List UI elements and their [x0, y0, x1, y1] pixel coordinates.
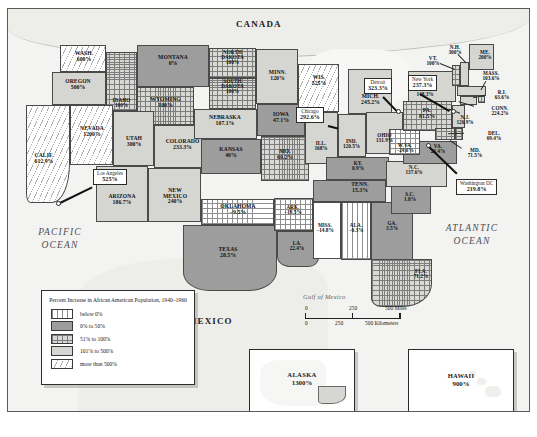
- inset-label-alaska: ALASKA 1300%: [250, 372, 354, 386]
- alaska-panhandle: [318, 386, 346, 404]
- state-oklahoma[interactable]: [201, 199, 274, 225]
- state-texas[interactable]: [183, 225, 277, 291]
- state-mississippi[interactable]: [313, 202, 341, 259]
- state-indiana[interactable]: [338, 114, 366, 157]
- state-north-dakota[interactable]: [209, 48, 256, 78]
- state-missouri[interactable]: [261, 136, 309, 181]
- inset-alaska[interactable]: ALASKA 1300%: [249, 349, 355, 412]
- city-value: 323.3%: [368, 85, 388, 91]
- state-washington[interactable]: [60, 45, 106, 72]
- legend-title: Percent Increase in African American Pop…: [49, 297, 187, 305]
- city-callout-washington-dc[interactable]: Washington DC 219.8%: [456, 179, 497, 195]
- city-callout-new-york[interactable]: New York 237.3%: [408, 75, 437, 91]
- state-minnesota[interactable]: [256, 49, 298, 104]
- legend-swatch-0-50: [51, 321, 73, 331]
- state-new-hampshire[interactable]: [460, 62, 469, 86]
- legend-label: below 0%: [80, 311, 103, 317]
- state-pennsylvania[interactable]: [403, 101, 452, 131]
- legend-swatch-over-500: [51, 359, 73, 369]
- state-west-virginia[interactable]: [389, 129, 420, 155]
- state-nebraska[interactable]: [194, 109, 257, 139]
- scale-tick: 0: [305, 320, 308, 326]
- legend-item-0-50: 0% to 50%: [51, 321, 194, 331]
- state-south-carolina[interactable]: [391, 184, 431, 214]
- scale-tick: 250: [349, 305, 357, 311]
- state-florida[interactable]: [371, 259, 432, 307]
- city-value: 292.6%: [300, 114, 320, 120]
- legend-item-below-0: below 0%: [51, 309, 194, 319]
- scale-rule: [305, 313, 401, 319]
- map-canvas: CANADA MEXICO PACIFICOCEAN ATLANTICOCEAN…: [8, 9, 529, 411]
- legend: Percent Increase in African American Pop…: [41, 290, 195, 385]
- legend-label: more than 500%: [80, 361, 117, 367]
- hawaii-island: [485, 386, 501, 397]
- legend-item-over-500: more than 500%: [51, 359, 194, 369]
- state-maine[interactable]: [469, 44, 494, 70]
- state-delaware[interactable]: [455, 128, 463, 140]
- scale-kilometers-ticks: 0 250 500 Kilometers: [305, 320, 423, 328]
- city-marker-washington-dc: [426, 143, 431, 148]
- scale-tick: 500 Kilometers: [365, 320, 398, 326]
- state-utah[interactable]: [113, 111, 154, 166]
- legend-swatch-51-100: [51, 334, 73, 344]
- inset-value: 1300%: [250, 379, 354, 386]
- city-marker-los-angeles: [56, 201, 61, 206]
- inset-hawaii[interactable]: HAWAII 900%: [408, 349, 514, 412]
- state-nevada[interactable]: [70, 105, 113, 165]
- scale-tick: 250: [335, 320, 343, 326]
- scale-miles-ticks: 0 250 500 Miles: [305, 305, 423, 313]
- state-new-mexico[interactable]: [148, 168, 201, 222]
- inset-label-hawaii: HAWAII 900%: [409, 373, 513, 387]
- legend-swatch-101-500: [51, 346, 73, 356]
- map-frame: CANADA MEXICO PACIFICOCEAN ATLANTICOCEAN…: [7, 8, 530, 412]
- legend-item-101-500: 101% to 500%: [51, 346, 194, 356]
- state-tennessee[interactable]: [313, 180, 386, 202]
- city-callout-los-angeles[interactable]: Los Angeles 525%: [93, 169, 127, 185]
- inset-value: 900%: [409, 380, 513, 387]
- state-oregon[interactable]: [52, 72, 106, 105]
- legend-item-51-100: 51% to 100%: [51, 334, 194, 344]
- state-arkansas[interactable]: [274, 198, 313, 231]
- city-marker-new-york: [451, 109, 456, 114]
- city-value: 525%: [97, 176, 123, 182]
- state-kentucky[interactable]: [326, 157, 389, 180]
- gulf-of-mexico-label: Gulf of Mexico: [303, 293, 346, 300]
- city-value: 237.3%: [412, 82, 433, 88]
- scale-tick: 500 Miles: [385, 305, 407, 311]
- scale-bar: 0 250 500 Miles 0 250 500 Kilometers: [305, 305, 423, 328]
- state-rhode-island[interactable]: [478, 96, 485, 103]
- state-montana[interactable]: [137, 45, 209, 87]
- city-value: 219.8%: [460, 186, 493, 192]
- inset-name: HAWAII: [409, 373, 513, 380]
- state-alabama[interactable]: [341, 202, 371, 260]
- legend-swatch-below-0: [51, 309, 73, 319]
- state-idaho[interactable]: [106, 52, 137, 111]
- legend-label: 0% to 50%: [80, 323, 105, 329]
- city-callout-detroit[interactable]: Detroit 323.3%: [364, 78, 392, 94]
- legend-label: 101% to 500%: [80, 348, 113, 354]
- ocean-label-atlantic: ATLANTICOCEAN: [432, 222, 512, 248]
- city-marker-detroit: [396, 109, 401, 114]
- ocean-label-pacific: PACIFICOCEAN: [22, 226, 98, 252]
- legend-label: 51% to 100%: [80, 336, 110, 342]
- scale-tick: 0: [305, 305, 308, 311]
- state-wisconsin[interactable]: [298, 64, 339, 112]
- city-callout-chicago[interactable]: Chicago 292.6%: [296, 107, 324, 123]
- state-north-carolina[interactable]: [386, 161, 447, 187]
- country-label-canada: CANADA: [236, 19, 282, 29]
- state-south-dakota[interactable]: [209, 78, 256, 109]
- state-california[interactable]: [26, 105, 70, 203]
- state-kansas[interactable]: [201, 139, 261, 174]
- inset-name: ALASKA: [250, 372, 354, 379]
